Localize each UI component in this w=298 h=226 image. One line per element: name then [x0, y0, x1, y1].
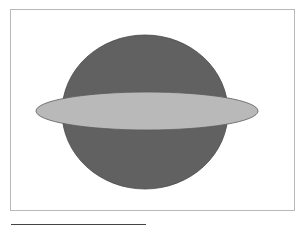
planet-diagram [0, 0, 298, 226]
page: · · · [0, 0, 298, 226]
ring-ellipse-shape [36, 92, 258, 130]
footnote-separator-rule [11, 224, 146, 225]
